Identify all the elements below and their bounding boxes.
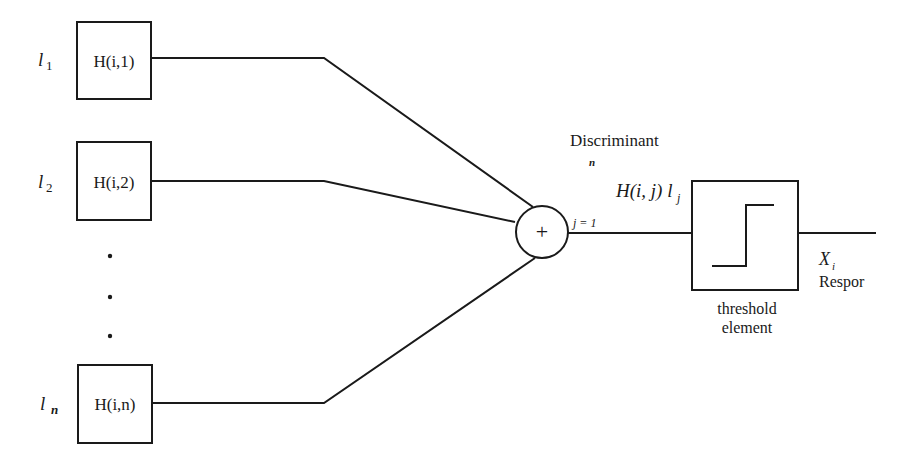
weight-box-1-label: H(i,1) [93,52,134,71]
discriminant-expression: H(i, j) l [615,180,672,202]
output-symbol: X [818,249,831,269]
weight-box-2-label: H(i,2) [93,173,134,192]
input-1-subscript: 1 [46,58,53,73]
ellipsis-dot [108,334,112,338]
input-n-subscript: n [51,402,58,417]
summing-junction: + [516,206,568,258]
input-2: l 2 H(i,2) [38,142,515,222]
ellipsis-dot [108,295,112,299]
discriminant-title: Discriminant [570,131,659,150]
discriminant-expression-subscript: j [675,191,681,205]
input-2-subscript: 2 [46,180,53,195]
discriminant-annotation: Discriminant n j = 1 H(i, j) l j [570,131,681,230]
sum-lower-limit: j = 1 [571,216,596,230]
input-n: l n H(i,n) [40,258,535,443]
plus-icon: + [536,219,548,244]
diagram-canvas: l 1 H(i,1) l 2 H(i,2) l n H(i,n) + Discr… [0,0,910,476]
input-n-label: l [40,393,45,414]
input-1-label: l [38,49,43,70]
threshold-label-line2: element [722,319,773,336]
step-function-icon [712,205,774,266]
output-subscript: i [832,260,835,272]
output: X i Respor [798,233,876,291]
threshold-label-line1: threshold [717,300,777,317]
connector-2 [151,181,515,222]
threshold-element: threshold element [692,181,798,336]
ellipsis [108,254,112,338]
connector-n [152,258,535,403]
ellipsis-dot [108,254,112,258]
weight-box-n-label: H(i,n) [94,395,135,414]
output-label: Respor [819,273,865,291]
sum-upper-limit: n [589,156,595,168]
input-2-label: l [38,171,43,192]
